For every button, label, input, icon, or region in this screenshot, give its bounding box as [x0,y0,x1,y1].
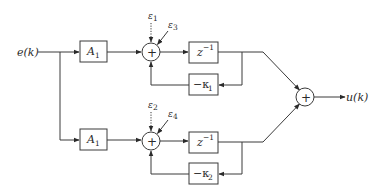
bottom-delay-superscript: −1 [203,133,214,142]
top-gain-label: A [86,45,95,58]
top-branch: A 1 + ε 1 ε 3 z −1 −κ 1 [80,11,300,95]
bottom-sum-plus: + [147,135,157,149]
top-to-output-sum-arrow [263,52,300,90]
bottom-feedback-label: −κ [193,167,209,180]
top-feedback-label: −κ [193,78,209,91]
block-diagram: e(k) A 1 + ε 1 ε 3 z −1 −κ [0,0,389,196]
bottom-branch: A 1 + ε 2 ε 4 z −1 −κ 2 [80,100,300,184]
top-sum-plus: + [147,46,157,60]
top-noise-dotted-subscript: 1 [153,14,158,23]
bottom-feedback-subscript: 2 [208,173,213,182]
top-noise-solid-arrow [158,31,169,45]
top-delay-superscript: −1 [203,43,214,52]
bottom-noise-solid-arrow [158,120,169,134]
bottom-gain-subscript: 1 [95,139,100,148]
bottom-delay-label: z [196,136,203,149]
top-noise-solid-subscript: 3 [173,23,178,32]
input-label: e(k) [17,46,39,59]
bottom-gain-label: A [86,133,95,146]
bottom-to-output-sum-arrow [263,104,300,142]
top-gain-subscript: 1 [95,51,100,60]
top-delay-label: z [196,46,203,59]
output-label: u(k) [346,91,368,104]
bottom-noise-solid-subscript: 4 [173,112,178,121]
output-sum-plus: + [301,91,311,105]
bottom-noise-dotted-subscript: 2 [153,103,158,112]
top-feedback-subscript: 1 [208,84,213,93]
